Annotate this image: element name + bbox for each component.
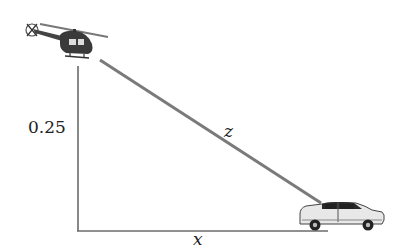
height-label: 0.25 <box>28 117 66 137</box>
car-icon <box>300 202 384 231</box>
hypotenuse-label: z <box>224 121 233 141</box>
hypotenuse-line <box>100 60 321 203</box>
helicopter-icon <box>26 24 108 58</box>
base-label: x <box>193 229 203 249</box>
